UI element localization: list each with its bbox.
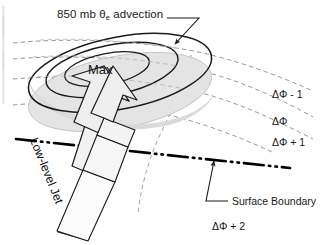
title-suffix: advection <box>110 8 163 20</box>
figure-canvas: 850 mb θe advection Max ΔΦ - 1 ΔΦ ΔΦ + 1… <box>0 0 327 245</box>
max-label: Max <box>88 63 113 76</box>
title-prefix: 850 mb <box>57 8 99 20</box>
surface-boundary-line <box>16 139 290 168</box>
contour-label-dphi-minus-1: ΔΦ - 1 <box>272 89 303 100</box>
surface-boundary-label: Surface Boundary <box>232 196 316 207</box>
scan-edge-artifact <box>2 6 5 104</box>
surface-boundary-leader-line <box>206 161 228 201</box>
contour-label-dphi-plus-2: ΔΦ + 2 <box>212 221 245 232</box>
figure-title: 850 mb θe advection <box>57 9 163 22</box>
contour-label-dphi: ΔΦ <box>272 116 287 127</box>
contour-label-dphi-plus-1: ΔΦ + 1 <box>272 137 305 148</box>
